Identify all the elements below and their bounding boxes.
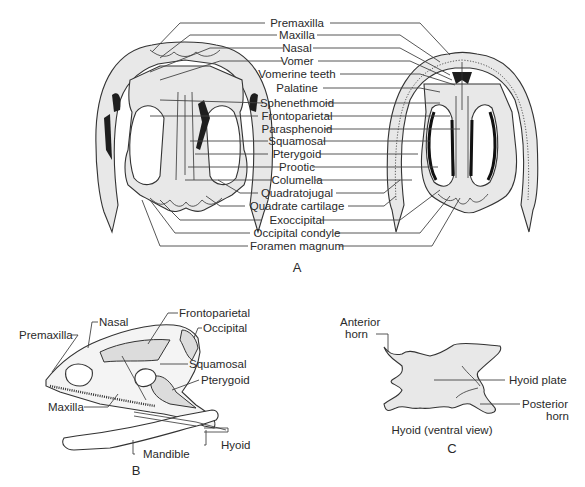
label-quadratojugal: Quadratojugal (261, 187, 333, 199)
label-c-posterior-horn-2: horn (546, 410, 569, 422)
label-parasphenoid: Parasphenoid (262, 123, 333, 135)
label-columella: Columella (271, 174, 323, 186)
label-b-premaxilla: Premaxilla (19, 329, 73, 341)
label-c-anterior-horn-2: horn (345, 328, 368, 340)
label-b-frontoparietal: Frontoparietal (179, 307, 250, 319)
lateral-skull-drawing (46, 325, 228, 450)
panel-letter-a: A (293, 260, 302, 275)
label-c-hyoid-plate: Hyoid plate (509, 374, 567, 386)
label-frontoparietal: Frontoparietal (262, 110, 333, 122)
label-b-occipital: Occipital (203, 322, 247, 334)
label-pterygoid: Pterygoid (273, 148, 322, 160)
label-maxilla: Maxilla (279, 29, 315, 41)
label-quadrate-cartilage: Quadrate cartilage (250, 200, 345, 212)
label-premaxilla: Premaxilla (270, 17, 324, 29)
label-foramen-magnum: Foramen magnum (250, 240, 344, 252)
dorsal-skull-drawing (96, 42, 273, 232)
label-exoccipital: Exoccipital (270, 214, 325, 226)
label-c-posterior-horn-1: Posterior (522, 398, 568, 410)
label-occipital-condyle: Occipital condyle (254, 227, 341, 239)
label-vomerine-teeth: Vomerine teeth (258, 68, 335, 80)
label-b-pterygoid: Pterygoid (201, 374, 250, 386)
label-b-hyoid: Hyoid (221, 439, 250, 451)
label-b-maxilla: Maxilla (48, 401, 84, 413)
ventral-skull-drawing (387, 53, 538, 233)
label-nasal: Nasal (282, 42, 311, 54)
panel-letter-b: B (132, 463, 141, 478)
hyoid-drawing (384, 343, 501, 413)
label-b-mandible: Mandible (143, 448, 190, 460)
label-sphenethmoid: Sphenethmoid (260, 97, 334, 109)
label-prootic: Prootic (279, 161, 315, 173)
label-palatine: Palatine (276, 82, 318, 94)
label-c-anterior-horn-1: Anterior (340, 316, 380, 328)
label-c-caption: Hyoid (ventral view) (392, 424, 493, 436)
label-vomer: Vomer (280, 55, 313, 67)
frog-skull-diagram: Premaxilla Maxilla Nasal Vomer Vomerine … (0, 0, 585, 487)
label-b-squamosal: Squamosal (189, 358, 247, 370)
panel-letter-c: C (447, 441, 456, 456)
label-b-nasal: Nasal (99, 316, 128, 328)
label-squamosal: Squamosal (268, 135, 326, 147)
